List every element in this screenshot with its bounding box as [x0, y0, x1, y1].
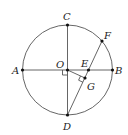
point-c: [66, 23, 69, 26]
label-e: E: [80, 58, 89, 69]
point-d: [66, 113, 69, 116]
point-g: [83, 76, 86, 79]
label-f: F: [103, 30, 112, 41]
geometry-diagram: A B C D O E F G: [0, 0, 128, 135]
segment-og: [68, 70, 86, 78]
label-a: A: [11, 65, 19, 76]
point-b: [111, 68, 114, 71]
label-c: C: [63, 11, 71, 22]
point-a: [21, 68, 24, 71]
label-b: B: [114, 65, 122, 76]
label-o: O: [56, 59, 64, 70]
label-g: G: [87, 81, 95, 92]
label-d: D: [62, 121, 71, 132]
point-o: [66, 68, 69, 71]
